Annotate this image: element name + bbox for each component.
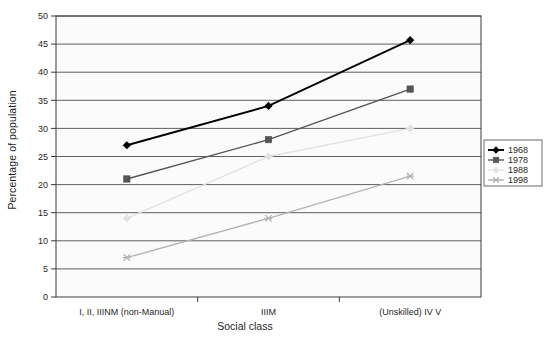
- svg-text:25: 25: [38, 152, 48, 162]
- svg-text:10: 10: [38, 236, 48, 246]
- x-axis-category-labels: I, II, IIINM (non-Manual)IIIM(Unskilled)…: [79, 307, 441, 317]
- svg-text:1968: 1968: [508, 145, 528, 155]
- svg-text:20: 20: [38, 180, 48, 190]
- svg-text:1978: 1978: [508, 155, 528, 165]
- svg-text:IIIM: IIIM: [261, 307, 276, 317]
- svg-text:35: 35: [38, 96, 48, 106]
- svg-text:I, II, IIINM (non-Manual): I, II, IIINM (non-Manual): [79, 307, 174, 317]
- svg-text:1988: 1988: [508, 165, 528, 175]
- svg-text:15: 15: [38, 208, 48, 218]
- x-axis-title: Social class: [0, 320, 545, 332]
- line-chart: Percentage of population 051015202530354…: [0, 0, 545, 341]
- y-axis-ticks: 05101520253035404550: [38, 11, 56, 302]
- chart-legend[interactable]: 1968197819881998: [484, 140, 542, 186]
- svg-text:40: 40: [38, 67, 48, 77]
- svg-text:1998: 1998: [508, 175, 528, 185]
- svg-text:50: 50: [38, 11, 48, 21]
- svg-text:(Unskilled) IV V: (Unskilled) IV V: [379, 307, 441, 317]
- svg-text:5: 5: [43, 264, 48, 274]
- x-axis-ticks: [198, 297, 340, 302]
- svg-text:30: 30: [38, 124, 48, 134]
- svg-text:45: 45: [38, 39, 48, 49]
- chart-canvas: 05101520253035404550 I, II, IIINM (non-M…: [0, 0, 545, 341]
- svg-text:0: 0: [43, 292, 48, 302]
